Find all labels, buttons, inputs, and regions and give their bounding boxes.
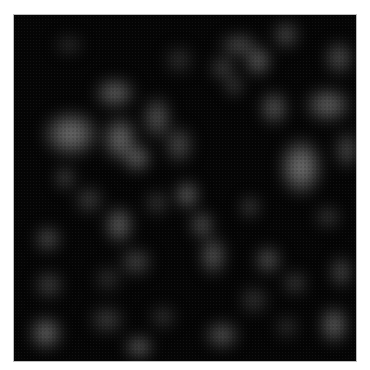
blob bbox=[329, 255, 353, 289]
blob bbox=[304, 87, 352, 123]
blob bbox=[239, 285, 269, 315]
blob bbox=[144, 190, 170, 216]
blob bbox=[324, 40, 354, 76]
blob bbox=[54, 165, 76, 191]
blob bbox=[244, 45, 272, 77]
blob bbox=[199, 235, 227, 277]
blob bbox=[94, 265, 122, 293]
blob bbox=[74, 185, 104, 215]
blob bbox=[34, 270, 64, 300]
blob bbox=[272, 20, 300, 50]
blob bbox=[314, 205, 342, 229]
blob bbox=[29, 315, 63, 351]
blob bbox=[279, 137, 323, 197]
blob-layer bbox=[14, 15, 356, 361]
blob bbox=[122, 143, 152, 173]
blob bbox=[119, 247, 153, 277]
blob bbox=[149, 305, 177, 329]
texture-image bbox=[14, 15, 356, 361]
blob bbox=[254, 245, 282, 275]
blob bbox=[319, 305, 349, 345]
blob bbox=[104, 205, 134, 245]
blob bbox=[334, 130, 356, 170]
blob bbox=[274, 315, 300, 339]
blob bbox=[282, 270, 308, 296]
blob bbox=[34, 225, 62, 253]
blob bbox=[204, 320, 240, 350]
blob bbox=[89, 305, 125, 335]
blob bbox=[42, 110, 100, 158]
blob bbox=[54, 35, 84, 55]
blob bbox=[94, 77, 136, 109]
blob bbox=[164, 125, 194, 165]
blob bbox=[209, 55, 237, 81]
blob bbox=[164, 45, 194, 75]
blob bbox=[259, 90, 289, 126]
blob bbox=[124, 335, 154, 359]
blob bbox=[174, 180, 200, 210]
blob bbox=[239, 195, 261, 219]
